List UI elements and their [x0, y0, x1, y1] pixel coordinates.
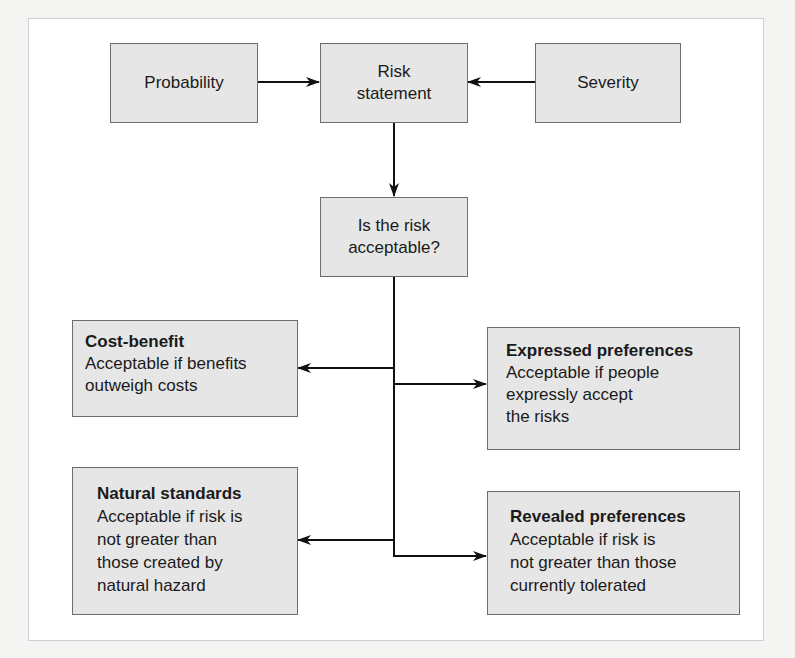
node-cost-benefit: Cost-benefit Acceptable if benefits outw… — [72, 320, 298, 417]
node-expressed-preferences-title: Expressed preferences — [506, 340, 727, 362]
node-revealed-preferences-line: not greater than those — [510, 551, 727, 574]
node-natural-standards-line: not greater than — [97, 528, 285, 551]
node-risk-statement: Risk statement — [320, 43, 468, 123]
node-cost-benefit-line: Acceptable if benefits — [85, 353, 285, 375]
node-probability: Probability — [110, 43, 258, 123]
node-natural-standards-line: natural hazard — [97, 574, 285, 597]
node-revealed-preferences-title: Revealed preferences — [510, 505, 727, 528]
node-acceptable-question: Is the risk acceptable? — [320, 197, 468, 277]
node-severity: Severity — [535, 43, 681, 123]
node-revealed-preferences-line: Acceptable if risk is — [510, 528, 727, 551]
node-natural-standards-line: Acceptable if risk is — [97, 505, 285, 528]
node-cost-benefit-title: Cost-benefit — [85, 331, 285, 353]
node-severity-label: Severity — [577, 72, 638, 94]
node-risk-statement-line: statement — [357, 83, 432, 105]
node-question-line: Is the risk — [348, 215, 440, 237]
node-expressed-preferences-line: Acceptable if people — [506, 362, 727, 384]
node-cost-benefit-line: outweigh costs — [85, 375, 285, 397]
node-revealed-preferences: Revealed preferences Acceptable if risk … — [487, 491, 740, 615]
node-natural-standards-line: those created by — [97, 551, 285, 574]
node-revealed-preferences-line: currently tolerated — [510, 574, 727, 597]
node-expressed-preferences-line: the risks — [506, 406, 727, 428]
node-natural-standards-title: Natural standards — [97, 482, 285, 505]
node-question-line: acceptable? — [348, 237, 440, 259]
node-expressed-preferences: Expressed preferences Acceptable if peop… — [487, 327, 740, 450]
node-risk-statement-line: Risk — [357, 61, 432, 83]
node-natural-standards: Natural standards Acceptable if risk is … — [72, 467, 298, 615]
node-expressed-preferences-line: expressly accept — [506, 384, 727, 406]
node-probability-label: Probability — [144, 72, 223, 94]
